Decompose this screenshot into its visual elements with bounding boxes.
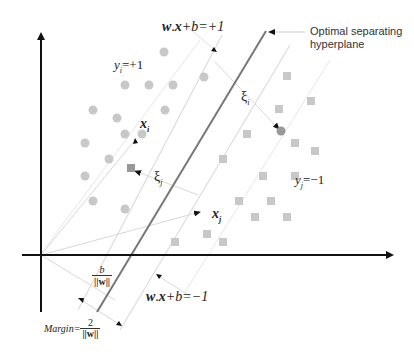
negative-point xyxy=(235,197,243,205)
positive-point xyxy=(121,205,130,214)
hyperplane-label: Optimal separating hyperplane xyxy=(310,25,402,51)
negative-point xyxy=(307,97,315,105)
subscript-j: j xyxy=(219,215,221,224)
positive-point xyxy=(161,106,170,115)
positive-point xyxy=(145,81,154,90)
class-pos-label: yi=+1 xyxy=(114,58,143,75)
negative-point xyxy=(219,155,227,163)
misclassified-square xyxy=(127,164,135,172)
slack-i-label: ξi xyxy=(241,90,249,107)
negative-point xyxy=(171,238,179,246)
x-symbol: x xyxy=(212,206,219,221)
x-symbol: x xyxy=(140,116,147,131)
x-symbol: x xyxy=(159,289,166,304)
positive-point xyxy=(200,73,209,82)
subscript-j: j xyxy=(160,178,162,187)
margin-formula: Margin= 2 ||w|| xyxy=(44,318,100,339)
positive-point xyxy=(113,114,122,123)
hyperplane-callout-arrow xyxy=(268,29,275,35)
negative-point xyxy=(243,130,251,138)
hyperplane-label-line1: Optimal separating xyxy=(310,25,402,38)
negative-point xyxy=(311,147,319,155)
xj-label: xj xyxy=(212,207,221,224)
negative-point xyxy=(283,213,291,221)
positive-point xyxy=(160,48,169,57)
class-neg-label: yj=−1 xyxy=(295,173,324,190)
margin-arrow-left xyxy=(78,298,84,303)
class-pos-value: =+1 xyxy=(122,57,143,72)
upper-margin-label: w.x+b=+1 xyxy=(162,20,224,34)
w-symbol: w xyxy=(146,289,155,304)
positive-point xyxy=(169,81,178,90)
w-symbol: w xyxy=(162,19,171,34)
negative-point xyxy=(251,213,259,221)
margin-fraction: 2 ||w|| xyxy=(80,318,100,339)
positive-point xyxy=(89,197,98,206)
ray-to-xj xyxy=(41,212,200,255)
misclassified-circle xyxy=(277,127,286,136)
margin-arrow-right xyxy=(116,321,122,326)
negative-point xyxy=(203,230,211,238)
positive-point xyxy=(89,106,98,115)
positive-point xyxy=(121,81,130,90)
lower-margin-label: w.x+b=−1 xyxy=(146,290,208,304)
negative-point xyxy=(283,72,291,80)
negative-point xyxy=(267,197,275,205)
offset-denominator: ||w|| xyxy=(92,275,112,287)
equation-rest: +b=+1 xyxy=(182,19,224,34)
negative-point xyxy=(219,238,227,246)
offset-fraction: b ||w|| xyxy=(92,264,112,287)
negative-point xyxy=(275,105,283,113)
positive-point xyxy=(81,139,90,148)
margin-numerator: 2 xyxy=(86,318,95,328)
negative-point xyxy=(259,172,267,180)
negative-point xyxy=(291,139,299,147)
ray-to-xi xyxy=(41,140,135,255)
equation-rest: +b=−1 xyxy=(166,289,208,304)
class-neg-value: =−1 xyxy=(303,172,324,187)
hyperplane-label-line2: hyperplane xyxy=(310,38,402,51)
subscript-i: i xyxy=(147,125,149,134)
slack-j-label: ξj xyxy=(154,170,162,187)
positive-point xyxy=(105,155,114,164)
xi-label: xi xyxy=(140,117,149,134)
x-symbol: x xyxy=(175,19,182,34)
margin-denominator: ||w|| xyxy=(80,328,100,339)
positive-point xyxy=(81,172,90,181)
positive-point xyxy=(121,130,130,139)
margin-text: Margin= xyxy=(44,324,80,334)
subscript-i: i xyxy=(247,98,249,107)
offset-numerator: b xyxy=(98,264,107,275)
